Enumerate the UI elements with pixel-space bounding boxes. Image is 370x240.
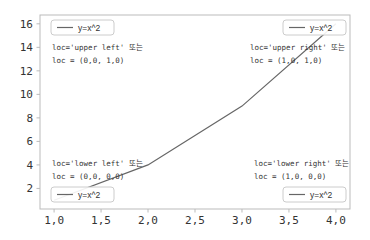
y-tick-label: 14: [20, 41, 34, 54]
y-tick-label: 2: [26, 182, 33, 195]
x-tick-label: 2,0: [138, 214, 158, 227]
annotation-line-2: loc = (0,0, 0,0): [52, 172, 124, 181]
x-tick-label: 1,0: [44, 214, 64, 227]
legend-label: y=x^2: [78, 190, 100, 200]
y-tick-label: 6: [26, 135, 33, 148]
annotation-line-1: loc='upper right' 또는: [250, 43, 345, 52]
y-tick-label: 10: [20, 88, 33, 101]
y-tick-label: 4: [26, 159, 33, 172]
legend-upper-right: y=x^2: [283, 20, 346, 35]
legend-label: y=x^2: [310, 190, 332, 200]
x-tick-label: 3,5: [279, 214, 299, 227]
x-axis: 1,01,52,02,53,03,54,0: [44, 209, 346, 227]
annotation-line-1: loc='lower right' 또는: [254, 159, 349, 168]
y-tick-label: 8: [26, 112, 33, 125]
annotation-line-1: loc='upper left' 또는: [52, 43, 143, 52]
line-chart: 1,01,52,02,53,03,54,0 246810121416 loc='…: [0, 0, 370, 240]
legend-upper-left: y=x^2: [51, 20, 114, 35]
x-tick-label: 3,0: [232, 214, 252, 227]
legend-lower-left: y=x^2: [51, 187, 114, 202]
legend-label: y=x^2: [310, 23, 332, 33]
y-tick-label: 12: [20, 65, 33, 78]
legend-lower-right: y=x^2: [283, 187, 346, 202]
x-tick-label: 1,5: [91, 214, 111, 227]
annotation-line-2: loc = (1,0, 0,0): [254, 172, 326, 181]
annotation-line-1: loc='lower left' 또는: [52, 159, 143, 168]
annotation-line-2: loc = (0,0, 1,0): [52, 56, 124, 65]
y-tick-label: 16: [20, 18, 33, 31]
annotation-line-2: loc = (1,0, 1,0): [250, 56, 322, 65]
legend-label: y=x^2: [78, 23, 100, 33]
x-tick-label: 2,5: [185, 214, 205, 227]
x-tick-label: 4,0: [326, 214, 346, 227]
y-axis: 246810121416: [20, 18, 40, 196]
